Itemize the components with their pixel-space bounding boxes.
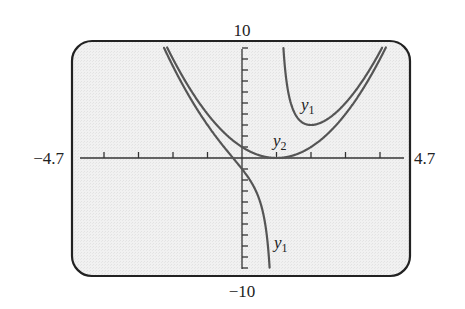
y-min-label: −10 [229, 282, 256, 301]
y-max-label: 10 [234, 21, 251, 40]
x-max-label: 4.7 [414, 149, 436, 168]
x-min-label: −4.7 [33, 149, 64, 168]
graphing-calculator-plot: −4.7 4.7 10 −10 y1y1y2 [0, 0, 465, 309]
